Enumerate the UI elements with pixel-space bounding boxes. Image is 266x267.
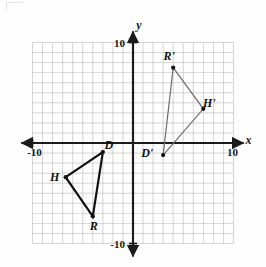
x-axis-min-label: -10 [27, 146, 42, 158]
vertex-label-D: D [104, 138, 114, 152]
coordinate-plane-figure: -101010-10xyHDRR'H'D' [0, 0, 266, 267]
page-corner-artifact [6, 2, 23, 11]
vertex-label-H: H [49, 170, 60, 184]
vertex-label-D-prime: D' [140, 146, 154, 160]
vertex-point-R-prime [171, 66, 175, 70]
vertex-label-R: R [89, 219, 98, 233]
graph-canvas: -101010-10xyHDRR'H'D' [0, 0, 266, 267]
vertex-label-H-prime: H' [202, 96, 216, 110]
vertex-point-D-prime [161, 153, 165, 157]
vertex-point-H [64, 175, 68, 179]
vertex-point-R [91, 214, 95, 218]
y-axis-name-label: y [134, 18, 142, 32]
triangle-hdr [66, 152, 103, 216]
y-axis-max-label: 10 [114, 37, 126, 49]
x-axis-name-label: x [245, 133, 252, 147]
y-axis-min-label: -10 [110, 238, 125, 250]
vertex-label-R-prime: R' [163, 49, 176, 63]
axis-lines [22, 32, 244, 257]
x-axis-max-label: 10 [227, 146, 239, 158]
